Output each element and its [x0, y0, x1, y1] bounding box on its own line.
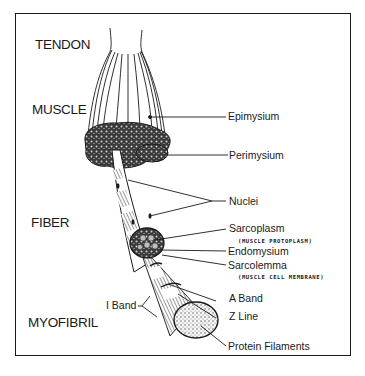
label-sarcoplasm: Sarcoplasm: [229, 222, 284, 234]
label-i-band: I Band: [106, 299, 136, 311]
myofibril-cross-section: [174, 302, 218, 338]
level-label-myofibril: MYOFIBRIL: [28, 315, 98, 330]
label-sarcolemma: Sarcolemma: [228, 259, 287, 271]
label-epimysium: Epimysium: [228, 110, 279, 122]
tendon-strands: [88, 28, 165, 135]
level-label-fiber: FIBER: [31, 215, 69, 230]
level-label-muscle: MUSCLE: [32, 102, 86, 117]
muscle-fascicles: [85, 122, 170, 168]
note-sarcolemma: (MUSCLE CELL MEMBRANE): [238, 274, 324, 280]
label-protein-filaments: Protein Filaments: [228, 340, 310, 352]
muscle-fiber: [112, 150, 164, 272]
label-nuclei: Nuclei: [229, 195, 258, 207]
note-sarcoplasm: (MUSCLE PROTOPLASM): [238, 238, 312, 244]
nucleus-3: [132, 219, 135, 225]
nucleus-1: [117, 183, 120, 189]
level-label-tendon: TENDON: [35, 37, 90, 52]
label-z-line: Z Line: [229, 310, 258, 322]
muscle-structure-diagram: TENDON MUSCLE FIBER MYOFIBRIL Epimysium …: [0, 0, 365, 376]
label-perimysium: Perimysium: [229, 149, 284, 161]
label-endomysium: Endomysium: [228, 245, 289, 257]
label-a-band: A Band: [229, 292, 263, 304]
